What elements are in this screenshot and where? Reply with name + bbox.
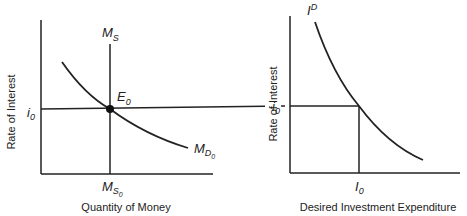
- money-market-panel: MS E0 i0 MD0 MS0 Quantity of Money Rate …: [5, 20, 285, 213]
- left-x-axis-label: Quantity of Money: [81, 201, 171, 213]
- investment-demand-curve: [315, 22, 423, 160]
- money-supply-label: MS: [102, 25, 119, 43]
- right-y-axis-label: Rate of Interest: [267, 66, 279, 141]
- left-y-axis-label: Rate of Interest: [5, 74, 17, 149]
- money-investment-diagram: MS E0 i0 MD0 MS0 Quantity of Money Rate …: [0, 0, 467, 216]
- left-interest-tick-label: i0: [27, 105, 35, 122]
- equilibrium-point: [106, 105, 114, 113]
- right-x-axis-label: Desired Investment Expenditure: [300, 201, 457, 213]
- interest-rate-line: [41, 106, 285, 109]
- investment-demand-label: ID: [307, 2, 318, 18]
- money-demand-label: MD0: [194, 141, 215, 160]
- money-supply-tick-label: MS0: [102, 179, 123, 198]
- investment-panel: ID i0 I0 Desired Investment Expenditure …: [265, 2, 460, 213]
- equilibrium-label: E0: [117, 89, 131, 107]
- investment-tick-label: I0: [355, 179, 364, 196]
